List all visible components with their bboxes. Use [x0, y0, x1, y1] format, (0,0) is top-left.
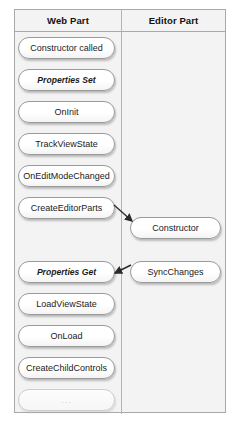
lifecycle-step-properties-get[interactable]: Properties Get: [18, 261, 115, 283]
webpart-lifecycle-diagram: Web Part Editor Part Constructor calledP…: [0, 0, 239, 437]
lifecycle-step-loadviewstate[interactable]: LoadViewState: [18, 293, 115, 315]
lifecycle-table: Web Part Editor Part Constructor calledP…: [14, 9, 226, 413]
arrow-create-editor-parts-to-constructor: [114, 205, 132, 221]
column-divider: [121, 10, 122, 414]
header-rule: [15, 31, 225, 32]
lifecycle-step-onload[interactable]: OnLoad: [18, 325, 115, 347]
lifecycle-step-syncchanges[interactable]: SyncChanges: [130, 261, 221, 283]
arrow-sync-changes-to-properties-get: [115, 265, 131, 273]
lifecycle-step-createeditorparts[interactable]: CreateEditorParts: [18, 197, 115, 219]
lifecycle-step-oneditmodechanged[interactable]: OnEditModeChanged: [18, 165, 115, 187]
lifecycle-step-trackviewstate[interactable]: TrackViewState: [18, 133, 115, 155]
lifecycle-step-createchildcontrols[interactable]: CreateChildControls: [18, 357, 115, 379]
lifecycle-step-properties-set[interactable]: Properties Set: [18, 69, 115, 91]
column-header-web-part: Web Part: [15, 14, 121, 28]
lifecycle-step-oninit[interactable]: OnInit: [18, 101, 115, 123]
lifecycle-step-constructor[interactable]: Constructor: [130, 217, 221, 239]
lifecycle-step-constructor-called[interactable]: Constructor called: [18, 37, 115, 59]
cut-off-caption-fragment: [0, 0, 239, 8]
column-header-editor-part: Editor Part: [122, 14, 225, 28]
lifecycle-step-[interactable]: ...: [18, 389, 115, 411]
